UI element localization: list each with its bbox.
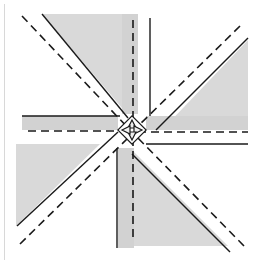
strip-right (146, 116, 248, 130)
strip-top (122, 14, 138, 114)
flap-left (16, 144, 100, 226)
center-point (118, 116, 146, 144)
flap-bottom (134, 152, 228, 246)
strip-left (22, 116, 118, 130)
strip-bottom (118, 148, 134, 248)
origami-diagram (0, 0, 260, 268)
